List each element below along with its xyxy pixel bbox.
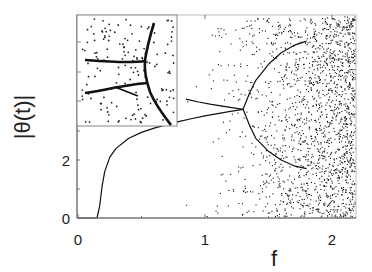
inset-scatter-point	[108, 23, 110, 25]
scatter-point	[290, 201, 291, 202]
scatter-point	[266, 156, 267, 157]
inset-scatter-point	[148, 26, 150, 28]
scatter-point	[325, 62, 326, 63]
scatter-point	[254, 35, 255, 36]
scatter-point	[311, 119, 312, 120]
scatter-point	[322, 71, 323, 72]
scatter-point	[332, 175, 333, 176]
scatter-point	[342, 192, 343, 193]
scatter-point	[238, 171, 239, 172]
scatter-point	[320, 130, 321, 131]
scatter-point	[272, 165, 273, 166]
scatter-point	[219, 35, 220, 36]
scatter-point	[319, 91, 320, 92]
scatter-point	[341, 41, 342, 42]
scatter-point	[344, 88, 345, 89]
scatter-point	[242, 167, 243, 168]
scatter-point	[218, 31, 219, 32]
inset-scatter-point	[143, 48, 145, 50]
scatter-point	[299, 132, 300, 133]
scatter-point	[339, 101, 340, 102]
scatter-point	[285, 74, 286, 75]
scatter-point	[354, 202, 355, 203]
scatter-point	[332, 188, 333, 189]
scatter-point	[350, 210, 351, 211]
scatter-point	[273, 57, 274, 58]
scatter-point	[344, 136, 345, 137]
scatter-point	[300, 92, 301, 93]
scatter-point	[336, 108, 337, 109]
scatter-point	[316, 91, 317, 92]
inset-scatter-point	[107, 111, 109, 113]
inset-scatter-point	[139, 40, 141, 42]
scatter-point	[352, 79, 353, 80]
scatter-point	[341, 209, 342, 210]
scatter-point	[308, 178, 309, 179]
scatter-point	[305, 107, 306, 108]
inset-scatter-point	[87, 41, 89, 43]
scatter-point	[329, 126, 330, 127]
scatter-point	[298, 64, 299, 65]
scatter-point	[284, 216, 285, 217]
scatter-point	[336, 100, 337, 101]
scatter-point	[325, 105, 326, 106]
scatter-point	[339, 170, 340, 171]
scatter-point	[284, 139, 285, 140]
scatter-point	[316, 129, 317, 130]
scatter-point	[334, 107, 335, 108]
scatter-point	[276, 148, 277, 149]
scatter-point	[215, 36, 216, 37]
scatter-point	[268, 107, 269, 108]
scatter-point	[321, 56, 322, 57]
scatter-point	[269, 87, 270, 88]
inset-scatter-point	[156, 99, 158, 101]
scatter-point	[309, 83, 310, 84]
scatter-point	[321, 216, 322, 217]
inset-scatter-point	[104, 37, 106, 39]
scatter-point	[354, 106, 355, 107]
scatter-point	[242, 41, 243, 42]
scatter-point	[236, 82, 237, 83]
scatter-point	[336, 25, 337, 26]
scatter-point	[297, 64, 298, 65]
scatter-point	[334, 19, 335, 20]
scatter-point	[272, 116, 273, 117]
scatter-point	[313, 29, 314, 30]
scatter-point	[289, 202, 290, 203]
scatter-point	[286, 126, 287, 127]
scatter-point	[338, 24, 339, 25]
scatter-point	[289, 146, 290, 147]
scatter-point	[331, 120, 332, 121]
scatter-point	[306, 154, 307, 155]
scatter-point	[331, 40, 332, 41]
scatter-point	[339, 32, 340, 33]
scatter-point	[317, 65, 318, 66]
scatter-point	[351, 204, 352, 205]
scatter-point	[353, 206, 354, 207]
scatter-point	[324, 156, 325, 157]
scatter-point	[328, 138, 329, 139]
scatter-point	[308, 171, 309, 172]
scatter-point	[347, 170, 348, 171]
scatter-point	[279, 32, 280, 33]
scatter-point	[331, 169, 332, 170]
scatter-point	[280, 27, 281, 28]
scatter-point	[286, 194, 287, 195]
scatter-point	[333, 57, 334, 58]
scatter-point	[297, 95, 298, 96]
scatter-point	[352, 159, 353, 160]
scatter-point	[335, 104, 336, 105]
scatter-point	[320, 61, 321, 62]
scatter-point	[295, 102, 296, 103]
inset-scatter-point	[118, 67, 120, 69]
scatter-point	[336, 96, 337, 97]
scatter-point	[308, 151, 309, 152]
scatter-point	[255, 98, 256, 99]
scatter-point	[289, 53, 290, 54]
scatter-point	[287, 84, 288, 85]
scatter-point	[311, 182, 312, 183]
scatter-point	[240, 64, 241, 65]
inset-scatter-point	[94, 52, 96, 54]
scatter-point	[316, 34, 317, 35]
scatter-point	[240, 50, 241, 51]
